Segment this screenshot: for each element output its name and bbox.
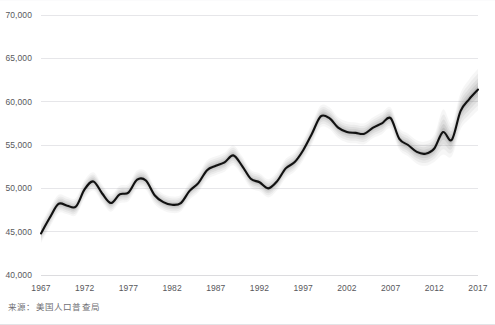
x-axis-tick-label: 1982 bbox=[162, 283, 181, 293]
x-axis-tick-label: 1992 bbox=[250, 283, 269, 293]
y-axis-tick-label: 55,000 bbox=[5, 140, 32, 150]
y-axis-tick-label: 40,000 bbox=[5, 270, 32, 280]
x-axis-tick-label: 1972 bbox=[75, 283, 94, 293]
chart-figure: 40,00045,00050,00055,00060,00065,00070,0… bbox=[0, 0, 495, 325]
y-axis-tick-label: 65,000 bbox=[5, 53, 32, 63]
x-axis-tick-label: 2007 bbox=[381, 283, 400, 293]
series-lines-group bbox=[41, 90, 478, 234]
line-chart-canvas: 40,00045,00050,00055,00060,00065,00070,0… bbox=[0, 0, 495, 325]
x-axis-tick-label: 1997 bbox=[294, 283, 313, 293]
y-axis-tick-label: 45,000 bbox=[5, 227, 32, 237]
series-line-median-household-income bbox=[41, 90, 478, 234]
x-axis-tick-label: 2002 bbox=[337, 283, 356, 293]
uncertainty-band bbox=[41, 74, 478, 241]
uncertainty-bands-group bbox=[41, 69, 478, 243]
y-axis-tick-label: 50,000 bbox=[5, 183, 32, 193]
x-axis-tick-labels: 1967197219771982198719921997200220072012… bbox=[31, 283, 487, 293]
y-axis-tick-label: 70,000 bbox=[5, 10, 32, 20]
x-axis-tick-label: 1977 bbox=[119, 283, 138, 293]
y-axis-tick-labels: 40,00045,00050,00055,00060,00065,00070,0… bbox=[5, 10, 32, 280]
source-note: 来源：美国人口普查局 bbox=[8, 300, 100, 312]
x-axis-tick-label: 1967 bbox=[31, 283, 50, 293]
x-axis-tick-label: 1987 bbox=[206, 283, 225, 293]
uncertainty-band bbox=[41, 86, 478, 235]
y-axis-tick-label: 60,000 bbox=[5, 97, 32, 107]
x-axis-tick-label: 2012 bbox=[425, 283, 444, 293]
x-axis-tick-label: 2017 bbox=[468, 283, 487, 293]
